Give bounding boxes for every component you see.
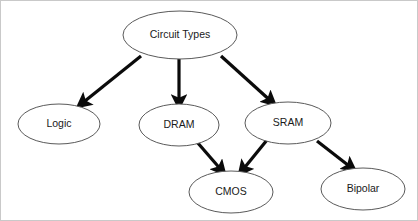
node-label-bipolar: Bipolar [347, 182, 380, 194]
edge-dram-to-cmos [197, 142, 223, 172]
node-label-circuit-types: Circuit Types [150, 28, 211, 40]
node-logic[interactable]: Logic [18, 104, 100, 144]
node-sram[interactable]: SRAM [245, 102, 331, 144]
node-label-cmos: CMOS [215, 185, 247, 197]
node-dram[interactable]: DRAM [139, 104, 219, 146]
edge-circuit-types-to-sram [221, 56, 273, 103]
node-label-logic: Logic [46, 117, 71, 129]
edge-sram-to-cmos [241, 140, 267, 172]
node-circuit-types[interactable]: Circuit Types [123, 11, 237, 59]
edge-sram-to-bipolar [317, 141, 353, 169]
node-label-dram: DRAM [164, 118, 195, 130]
edge-circuit-types-to-logic [80, 56, 141, 105]
circuit-types-diagram: Circuit TypesLogicDRAMSRAMCMOSBipolar [1, 1, 418, 221]
node-bipolar[interactable]: Bipolar [321, 168, 405, 210]
nodes-group: Circuit TypesLogicDRAMSRAMCMOSBipolar [18, 11, 405, 213]
node-cmos[interactable]: CMOS [189, 171, 273, 213]
node-label-sram: SRAM [273, 116, 303, 128]
diagram-canvas: Circuit TypesLogicDRAMSRAMCMOSBipolar [0, 0, 418, 221]
